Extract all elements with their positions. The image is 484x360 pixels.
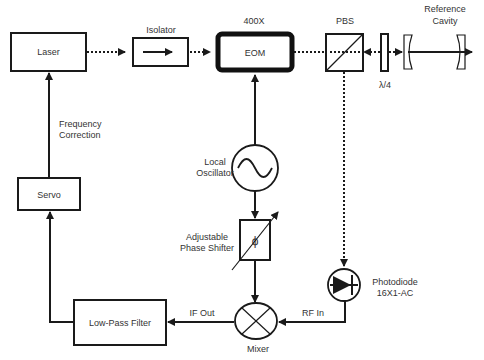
isolator-label: Isolator — [146, 25, 176, 35]
mixer: Mixer — [235, 303, 277, 354]
photodiode-label-line2: 16X1-AC — [377, 288, 414, 298]
if-out-label: IF Out — [189, 308, 215, 318]
phase-shifter: ϕ Adjustable Phase Shifter — [180, 212, 278, 270]
cavity-label-line2: Cavity — [432, 16, 458, 26]
mixer-label: Mixer — [247, 344, 269, 354]
servo: Servo — [18, 178, 80, 210]
quarter-wave-plate: λ/4 — [379, 34, 391, 90]
isolator-block: Isolator — [133, 25, 188, 66]
rf-in-label: RF In — [302, 308, 324, 318]
low-pass-filter: Low-Pass Filter — [74, 300, 166, 345]
reference-cavity: Reference Cavity — [404, 4, 472, 69]
lo-label-line1: Local — [204, 157, 226, 167]
laser-block: Laser — [11, 33, 86, 71]
laser-label: Laser — [37, 47, 60, 57]
pdh-block-diagram: Laser Isolator 400X EOM PBS λ/4 Referenc… — [0, 0, 484, 360]
pbs-label: PBS — [336, 16, 354, 26]
eom-model-label: 400X — [243, 16, 264, 26]
freq-correction-label-line2: Correction — [59, 130, 101, 140]
phase-shifter-label-line2: Phase Shifter — [180, 243, 234, 253]
freq-correction-label-line1: Frequency — [59, 119, 102, 129]
eom-block: 400X EOM — [218, 16, 292, 70]
lpf-label: Low-Pass Filter — [89, 318, 151, 328]
local-oscillator: Local Oscillator — [196, 145, 278, 191]
quarter-wave-label: λ/4 — [379, 80, 391, 90]
photodiode-label-line1: Photodiode — [372, 277, 418, 287]
lpf-to-servo-line — [50, 212, 74, 322]
eom-label: EOM — [245, 48, 266, 58]
servo-label: Servo — [37, 190, 61, 200]
cavity-label-line1: Reference — [424, 4, 466, 14]
lo-label-line2: Oscillator — [196, 168, 234, 178]
photodiode: Photodiode 16X1-AC — [328, 269, 418, 301]
pbs-block: PBS — [326, 16, 363, 71]
phase-shifter-label-line1: Adjustable — [186, 232, 228, 242]
